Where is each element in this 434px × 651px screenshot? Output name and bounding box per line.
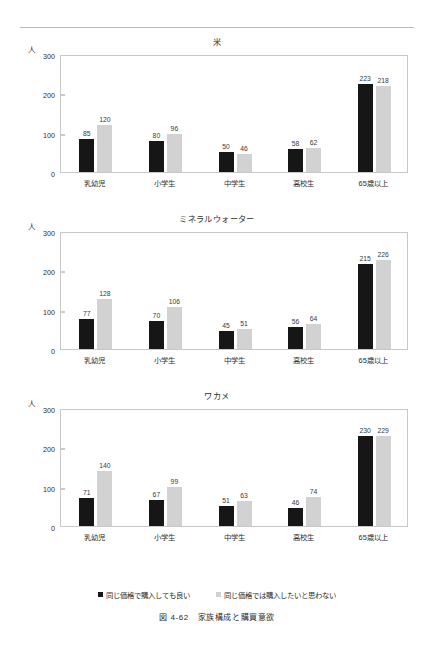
bar-value-label: 215 bbox=[360, 255, 371, 262]
x-axis-tick-label: 中学生 bbox=[224, 354, 245, 365]
plot-area: 300200100071140679951634674230229 bbox=[60, 409, 408, 527]
bar-value-label: 62 bbox=[310, 139, 318, 146]
bar: 62 bbox=[306, 148, 321, 172]
chart-title: ワカメ bbox=[0, 389, 434, 401]
bar: 218 bbox=[376, 86, 391, 172]
legend-item: 同じ価格では購入したいと思わない bbox=[216, 589, 336, 600]
bar-value-label: 140 bbox=[99, 462, 110, 469]
bar-value-label: 226 bbox=[378, 251, 389, 258]
bar-value-label: 46 bbox=[292, 499, 300, 506]
bar-group: 5664 bbox=[288, 233, 321, 349]
bar-value-label: 99 bbox=[171, 478, 179, 485]
bar-value-label: 223 bbox=[360, 75, 371, 82]
figure-caption: 図 4-62 家族構成と購買意欲 bbox=[0, 611, 434, 622]
bar-value-label: 70 bbox=[153, 312, 161, 319]
x-axis-tick-label: 乳幼児 bbox=[84, 177, 105, 188]
bar-group: 6799 bbox=[149, 410, 182, 526]
x-axis-tick-label: 乳幼児 bbox=[84, 354, 105, 365]
chart-block: 米人300200100085120809650465862223218乳幼児小学… bbox=[0, 32, 434, 209]
y-axis-unit-label: 人 bbox=[28, 44, 35, 55]
x-axis-tick-label: 中学生 bbox=[224, 177, 245, 188]
bars-layer: 771287010645515664215226 bbox=[61, 233, 407, 349]
bar: 229 bbox=[376, 436, 391, 526]
bar: 71 bbox=[79, 498, 94, 526]
x-axis-tick-label: 高校生 bbox=[293, 177, 314, 188]
bar-value-label: 64 bbox=[310, 315, 318, 322]
bar-group: 5046 bbox=[219, 56, 252, 172]
bar: 58 bbox=[288, 149, 303, 172]
y-axis-unit-label: 人 bbox=[28, 398, 35, 409]
legend-label: 同じ価格では購入したいと思わない bbox=[224, 589, 336, 600]
bar-value-label: 120 bbox=[99, 116, 110, 123]
bar: 215 bbox=[358, 264, 373, 349]
bar-value-label: 218 bbox=[378, 77, 389, 84]
y-axis-tick-label: 200 bbox=[43, 268, 61, 277]
bar-group: 85120 bbox=[79, 56, 112, 172]
y-axis-tick-label: 100 bbox=[43, 130, 61, 139]
bar: 223 bbox=[358, 84, 373, 172]
x-axis-labels: 乳幼児小学生中学生高校生65歳以上 bbox=[60, 354, 408, 368]
chart-block: ワカメ人300200100071140679951634674230229乳幼児… bbox=[0, 386, 434, 563]
y-axis-tick-label: 300 bbox=[43, 229, 61, 238]
bar: 56 bbox=[288, 327, 303, 349]
bar-group: 71140 bbox=[79, 410, 112, 526]
bar: 46 bbox=[288, 508, 303, 526]
bar-value-label: 67 bbox=[153, 491, 161, 498]
bar: 70 bbox=[149, 321, 164, 349]
bar: 45 bbox=[219, 331, 234, 349]
bar: 85 bbox=[79, 139, 94, 172]
bar: 77 bbox=[79, 319, 94, 349]
y-axis-tick-label: 200 bbox=[43, 91, 61, 100]
bar: 80 bbox=[149, 141, 164, 172]
bar-group: 4674 bbox=[288, 410, 321, 526]
y-axis-tick-label: 100 bbox=[43, 307, 61, 316]
x-axis-tick-label: 高校生 bbox=[293, 354, 314, 365]
bar-value-label: 71 bbox=[83, 489, 91, 496]
legend-item: 同じ価格で購入しても良い bbox=[98, 589, 190, 600]
bar-value-label: 63 bbox=[240, 492, 248, 499]
legend-label: 同じ価格で購入しても良い bbox=[106, 589, 190, 600]
x-axis-labels: 乳幼児小学生中学生高校生65歳以上 bbox=[60, 177, 408, 191]
bar: 50 bbox=[219, 152, 234, 172]
bar: 63 bbox=[237, 501, 252, 526]
figure-page: 米人300200100085120809650465862223218乳幼児小学… bbox=[0, 0, 434, 651]
x-axis-tick-label: 小学生 bbox=[154, 354, 175, 365]
bars-layer: 85120809650465862223218 bbox=[61, 56, 407, 172]
x-axis-tick-label: 65歳以上 bbox=[359, 354, 388, 365]
x-axis-tick-label: 65歳以上 bbox=[359, 177, 388, 188]
bar-group: 223218 bbox=[358, 56, 391, 172]
bar-group: 4551 bbox=[219, 233, 252, 349]
x-axis-tick-label: 中学生 bbox=[224, 531, 245, 542]
bar-group: 215226 bbox=[358, 233, 391, 349]
bar-value-label: 85 bbox=[83, 130, 91, 137]
x-axis-tick-label: 高校生 bbox=[293, 531, 314, 542]
plot-area: 3002001000771287010645515664215226 bbox=[60, 232, 408, 350]
bar-group: 70106 bbox=[149, 233, 182, 349]
bar-value-label: 106 bbox=[169, 298, 180, 305]
bar-value-label: 230 bbox=[360, 427, 371, 434]
bar-group: 8096 bbox=[149, 56, 182, 172]
bar: 226 bbox=[376, 260, 391, 349]
page-top-divider bbox=[20, 27, 414, 28]
y-axis-tick-label: 100 bbox=[43, 484, 61, 493]
bar: 106 bbox=[167, 307, 182, 349]
bar-value-label: 58 bbox=[292, 140, 300, 147]
plot-area: 300200100085120809650465862223218 bbox=[60, 55, 408, 173]
bar: 74 bbox=[306, 497, 321, 526]
bar: 128 bbox=[97, 299, 112, 349]
y-axis-tick-label: 200 bbox=[43, 445, 61, 454]
bar-group: 5862 bbox=[288, 56, 321, 172]
bar-value-label: 96 bbox=[171, 125, 179, 132]
bar-group: 77128 bbox=[79, 233, 112, 349]
y-axis-unit-label: 人 bbox=[28, 221, 35, 232]
bar-value-label: 74 bbox=[310, 488, 318, 495]
bar: 51 bbox=[219, 506, 234, 526]
chart-title: 米 bbox=[0, 35, 434, 47]
bar-value-label: 80 bbox=[153, 132, 161, 139]
bar: 46 bbox=[237, 154, 252, 172]
x-axis-tick-label: 65歳以上 bbox=[359, 531, 388, 542]
legend-swatch-icon bbox=[98, 592, 103, 597]
bar-value-label: 50 bbox=[222, 143, 230, 150]
bar: 51 bbox=[237, 329, 252, 349]
y-axis-tick-label: 300 bbox=[43, 52, 61, 61]
